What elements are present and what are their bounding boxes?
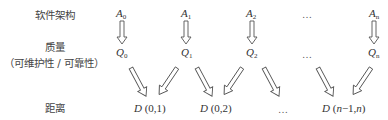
arrow-down-a2-q2 xyxy=(247,21,257,44)
arrow-diag-q1-d01 xyxy=(155,65,181,97)
arrow-down-a1-q1 xyxy=(181,21,191,44)
arrow-diag-ellipsis-dn xyxy=(314,66,338,99)
arrow-diag-q0-d01 xyxy=(127,66,151,99)
arrows-layer xyxy=(0,0,388,120)
arrow-down-a0-q0 xyxy=(117,21,127,44)
arrow-diag-qn-dn xyxy=(349,65,375,97)
arrow-diag-q2-ellipsis xyxy=(260,66,284,99)
arrow-down-an-qn xyxy=(369,21,379,44)
arrow-diag-q1-d02 xyxy=(193,66,217,99)
arrow-diag-q2-d02 xyxy=(220,65,246,97)
